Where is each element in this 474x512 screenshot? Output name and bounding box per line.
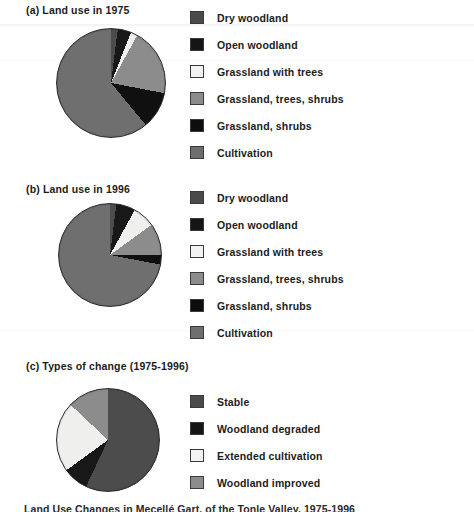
legend-swatch-icon — [190, 92, 204, 105]
legend-item-label: Woodland degraded — [217, 423, 320, 435]
legend-item[interactable]: Open woodland — [190, 31, 344, 58]
legend-item[interactable]: Grassland, shrubs — [190, 112, 344, 139]
legend-item[interactable]: Grassland, trees, shrubs — [190, 85, 344, 112]
legend-item-label: Stable — [217, 396, 249, 408]
legend-a: Dry woodland Open woodland Grassland wit… — [190, 4, 344, 166]
legend-swatch-icon — [190, 395, 204, 408]
legend-item[interactable]: Grassland, trees, shrubs — [190, 265, 344, 292]
legend-item-label: Grassland, trees, shrubs — [217, 93, 344, 105]
legend-item-label: Woodland improved — [217, 477, 320, 489]
pie-chart-a — [56, 28, 166, 138]
legend-swatch-icon — [190, 146, 204, 159]
legend-item-label: Open woodland — [217, 39, 298, 51]
legend-item[interactable]: Dry woodland — [190, 4, 344, 31]
legend-item[interactable]: Dry woodland — [190, 184, 344, 211]
legend-item-label: Dry woodland — [217, 12, 288, 24]
legend-swatch-icon — [190, 191, 204, 204]
panel-a-title: (a) Land use in 1975 — [26, 4, 129, 16]
legend-item[interactable]: Cultivation — [190, 139, 344, 166]
legend-item[interactable]: Open woodland — [190, 211, 344, 238]
legend-item[interactable]: Grassland with trees — [190, 58, 344, 85]
legend-item[interactable]: Grassland, shrubs — [190, 292, 344, 319]
legend-item-label: Cultivation — [217, 327, 273, 339]
legend-item-label: Open woodland — [217, 219, 298, 231]
legend-item-label: Extended cultivation — [217, 450, 323, 462]
legend-item-label: Grassland, shrubs — [217, 300, 312, 312]
pie-c-graphic — [56, 388, 160, 492]
legend-swatch-icon — [190, 38, 204, 51]
panel-c-title: (c) Types of change (1975-1996) — [26, 360, 189, 372]
legend-item-label: Grassland with trees — [217, 246, 323, 258]
panel-b-title: (b) Land use in 1996 — [26, 183, 130, 195]
legend-item-label: Dry woodland — [217, 192, 288, 204]
legend-item-label: Grassland, shrubs — [217, 120, 312, 132]
legend-item[interactable]: Woodland degraded — [190, 415, 323, 442]
figure-caption: Land Use Changes in Mecellé Gart, of the… — [24, 503, 464, 512]
legend-b: Dry woodland Open woodland Grassland wit… — [190, 184, 344, 346]
legend-swatch-icon — [190, 245, 204, 258]
legend-swatch-icon — [190, 299, 204, 312]
legend-item[interactable]: Cultivation — [190, 319, 344, 346]
legend-swatch-icon — [190, 11, 204, 24]
legend-swatch-icon — [190, 476, 204, 489]
legend-swatch-icon — [190, 326, 204, 339]
legend-swatch-icon — [190, 272, 204, 285]
pie-a-graphic — [56, 28, 166, 138]
legend-swatch-icon — [190, 65, 204, 78]
legend-c: Stable Woodland degraded Extended cultiv… — [190, 388, 323, 496]
legend-item-label: Grassland with trees — [217, 66, 323, 78]
pie-chart-c — [56, 388, 160, 492]
legend-swatch-icon — [190, 218, 204, 231]
pie-chart-b — [58, 203, 162, 307]
legend-item[interactable]: Stable — [190, 388, 323, 415]
legend-swatch-icon — [190, 422, 204, 435]
legend-item[interactable]: Woodland improved — [190, 469, 323, 496]
legend-item-label: Cultivation — [217, 147, 273, 159]
legend-item[interactable]: Extended cultivation — [190, 442, 323, 469]
pie-b-graphic — [58, 203, 162, 307]
legend-swatch-icon — [190, 119, 204, 132]
legend-item-label: Grassland, trees, shrubs — [217, 273, 344, 285]
legend-item[interactable]: Grassland with trees — [190, 238, 344, 265]
legend-swatch-icon — [190, 449, 204, 462]
